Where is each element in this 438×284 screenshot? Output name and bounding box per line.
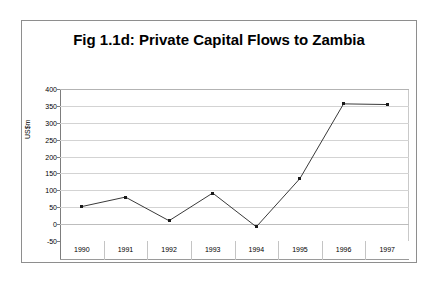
y-tick-label: -50 bbox=[23, 238, 57, 245]
x-tick-label: 1994 bbox=[235, 246, 279, 254]
x-tick-label: 1997 bbox=[365, 246, 409, 254]
y-tick-label: 50 bbox=[23, 204, 57, 211]
y-tick-label: 150 bbox=[23, 170, 57, 177]
x-tick-label: 1991 bbox=[104, 246, 148, 254]
y-axis-tick-labels: 400350300250200150100500-50 bbox=[22, 89, 57, 259]
x-tick-label: 1993 bbox=[191, 246, 235, 254]
x-axis-band: 19901991199219931994199519961997 bbox=[60, 241, 409, 260]
x-tick-label: 1992 bbox=[147, 246, 191, 254]
x-tick-label: 1995 bbox=[278, 246, 322, 254]
chart-title: Fig 1.1d: Private Capital Flows to Zambi… bbox=[22, 30, 416, 49]
y-tick-label: 350 bbox=[23, 102, 57, 109]
x-tick-label: 1990 bbox=[60, 246, 104, 254]
y-tick-label: 300 bbox=[23, 119, 57, 126]
y-tick-label: 200 bbox=[23, 153, 57, 160]
series-line bbox=[60, 89, 409, 241]
chart-frame: Fig 1.1d: Private Capital Flows to Zambi… bbox=[21, 20, 417, 263]
y-tick-label: 100 bbox=[23, 187, 57, 194]
y-tick-label: 250 bbox=[23, 136, 57, 143]
x-tick-label: 1996 bbox=[322, 246, 366, 254]
y-tick-label: 0 bbox=[23, 221, 57, 228]
y-tick-label: 400 bbox=[23, 86, 57, 93]
